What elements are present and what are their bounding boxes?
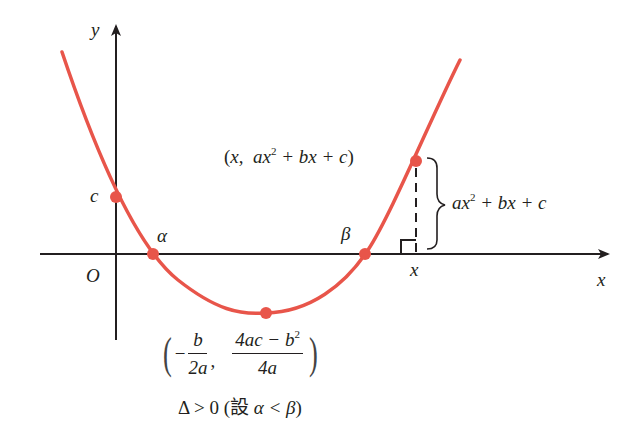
graph-canvas <box>0 0 642 444</box>
fraction-y: 4ac − b2 4a <box>232 328 303 379</box>
right-angle-marker <box>401 240 416 254</box>
x-axis-label: x <box>597 270 605 289</box>
brace-height-label: ax2 + bx + c <box>452 192 546 212</box>
y-intercept-label: c <box>90 186 98 205</box>
x-marker-label: x <box>410 260 418 279</box>
point-coordinate-label: (x, ax2 + bx + c) <box>224 146 354 166</box>
y-intercept-point <box>110 191 122 203</box>
condition-label: Δ > 0 (設 α < β) <box>178 392 302 419</box>
curly-brace <box>427 158 445 249</box>
parabola-curve <box>62 52 460 313</box>
origin-label: O <box>86 266 100 285</box>
root-beta-point <box>359 248 371 260</box>
beta-label: β <box>341 224 350 243</box>
y-axis-label: y <box>91 20 99 39</box>
fraction-x: b 2a <box>188 329 207 379</box>
vertex-coordinate-label: ( − b 2a , 4ac − b2 4a ) <box>160 328 321 379</box>
curve-point-x <box>410 155 422 167</box>
alpha-label: α <box>157 226 167 245</box>
root-alpha-point <box>147 248 159 260</box>
vertex-point <box>260 307 272 319</box>
